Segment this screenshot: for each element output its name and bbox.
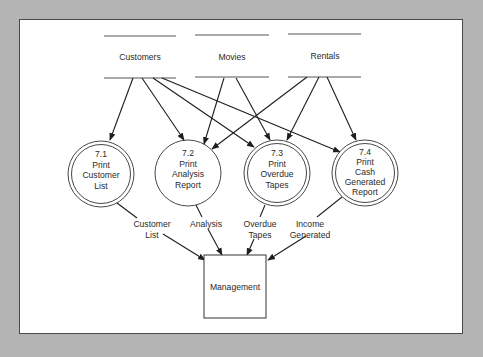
process-label-line: Overdue (261, 169, 294, 179)
process-7-2[interactable]: 7.2 Print Analysis Report (155, 140, 221, 206)
flow-customers-to-7-3 (153, 78, 254, 147)
process-label-line: Analysis (172, 169, 204, 179)
process-number: 7.3 (271, 148, 283, 158)
data-store-label: Movies (218, 52, 245, 62)
process-label-line: Generated (345, 177, 386, 187)
flow-analysis-to-management (208, 229, 222, 255)
flow-7-4-segment (317, 197, 342, 217)
external-entity-management[interactable]: Management (204, 255, 266, 318)
flow-customer-list-to-management (163, 234, 205, 260)
flow-rentals-to-7-2 (212, 77, 307, 149)
svg-text:Overdue: Overdue (244, 219, 277, 229)
svg-text:Customer: Customer (133, 219, 170, 229)
process-7-3[interactable]: 7.3 Print Overdue Tapes (244, 140, 310, 206)
flow-7-1-segment (117, 203, 137, 218)
svg-text:Generated: Generated (290, 230, 331, 240)
process-label-line: Customer (82, 170, 119, 180)
data-flow-diagram: Customers Movies Rentals 7.1 Print Custo… (0, 0, 483, 357)
flow-7-3-segment (260, 205, 265, 217)
flow-label-analysis: Analysis (190, 219, 222, 229)
flow-label-customer-list: Customer List (133, 219, 170, 240)
process-label-line: Print (356, 157, 374, 167)
process-label-line: Print (92, 160, 110, 170)
process-label-line: Cash (355, 167, 375, 177)
data-store-customers[interactable]: Customers (104, 36, 176, 78)
flow-7-2-segment (196, 205, 202, 217)
flow-rentals-to-7-3 (287, 77, 319, 140)
flow-label-overdue-tapes: Overdue Tapes (244, 219, 277, 240)
data-store-label: Customers (119, 52, 161, 62)
flow-overdue-tapes-to-management (247, 239, 254, 255)
process-label-line: List (94, 181, 108, 191)
flow-customers-to-7-1 (110, 78, 133, 140)
flow-customers-to-7-2 (142, 78, 184, 140)
data-store-rentals[interactable]: Rentals (288, 34, 361, 77)
process-label-line: Print (179, 159, 197, 169)
entity-label: Management (210, 282, 261, 292)
process-number: 7.1 (95, 149, 107, 159)
input-flows (110, 77, 356, 152)
data-store-label: Rentals (310, 51, 339, 61)
process-label-line: Print (268, 159, 286, 169)
process-label-line: Tapes (266, 180, 289, 190)
process-label-line: Report (352, 187, 378, 197)
flow-income-generated-to-management (268, 236, 306, 260)
process-label-line: Report (175, 180, 201, 190)
process-number: 7.4 (359, 147, 371, 157)
svg-text:Tapes: Tapes (249, 230, 272, 240)
flow-rentals-to-7-4 (327, 77, 356, 140)
process-7-1[interactable]: 7.1 Print Customer List (68, 141, 134, 207)
svg-text:Analysis: Analysis (190, 219, 222, 229)
process-number: 7.2 (182, 148, 194, 158)
svg-text:Income: Income (296, 219, 324, 229)
svg-text:List: List (145, 230, 159, 240)
data-store-movies[interactable]: Movies (195, 35, 269, 77)
flow-movies-to-7-2 (204, 78, 224, 144)
flow-label-income-generated: Income Generated (290, 219, 331, 240)
process-7-4[interactable]: 7.4 Print Cash Generated Report (332, 140, 398, 206)
